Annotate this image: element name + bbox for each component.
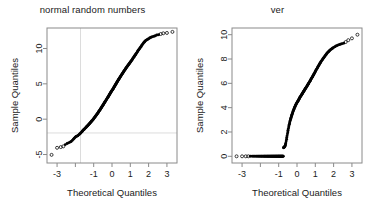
figure-root: normal random numbers -3-10123-50510Theo…: [0, 0, 370, 212]
qqplot-panel-left: normal random numbers -3-10123-50510Theo…: [0, 0, 185, 212]
x-axis-title: Theoretical Quantiles: [67, 187, 157, 198]
data-point: [171, 30, 174, 33]
x-tick-label: 1: [128, 169, 133, 179]
y-axis-title: Sample Quantiles: [194, 58, 205, 133]
data-point: [235, 155, 238, 158]
x-tick-label: 2: [331, 169, 336, 179]
x-tick-label: 3: [349, 169, 354, 179]
y-tick-label: 5: [34, 81, 44, 86]
x-tick-label: -1: [275, 169, 283, 179]
y-tick-label: 0: [219, 154, 229, 159]
panel-left-plot: -3-10123-50510Theoretical QuantilesSampl…: [0, 0, 185, 212]
data-point: [356, 33, 359, 36]
y-tick-label: 2: [219, 129, 229, 134]
y-tick-label: 10: [219, 30, 229, 40]
x-tick-label: 1: [313, 169, 318, 179]
qqplot-panel-right: ver -3-101230246810Theoretical Quantiles…: [185, 0, 370, 212]
data-point: [350, 37, 353, 40]
y-tick-label: 0: [34, 117, 44, 122]
y-axis-title: Sample Quantiles: [9, 58, 20, 133]
data-points: [50, 30, 174, 156]
data-point: [165, 31, 168, 34]
y-tick-label: 4: [219, 105, 229, 110]
x-tick-label: 2: [146, 169, 151, 179]
y-tick-label: -5: [34, 151, 44, 159]
data-point: [282, 155, 285, 158]
x-tick-label: 0: [294, 169, 299, 179]
plot-box: [232, 28, 362, 163]
panel-right-plot: -3-101230246810Theoretical QuantilesSamp…: [185, 0, 370, 212]
y-tick-label: 10: [34, 43, 44, 53]
x-tick-label: -3: [53, 169, 61, 179]
x-tick-label: -1: [90, 169, 98, 179]
data-point: [347, 39, 350, 42]
data-point: [241, 155, 244, 158]
x-tick-label: -3: [238, 169, 246, 179]
y-tick-label: 6: [219, 81, 229, 86]
x-axis-title: Theoretical Quantiles: [252, 187, 342, 198]
data-point: [56, 146, 59, 149]
x-tick-label: 0: [109, 169, 114, 179]
data-point: [50, 153, 53, 156]
data-points: [235, 33, 359, 158]
x-tick-label: 3: [164, 169, 169, 179]
y-tick-label: 8: [219, 57, 229, 62]
